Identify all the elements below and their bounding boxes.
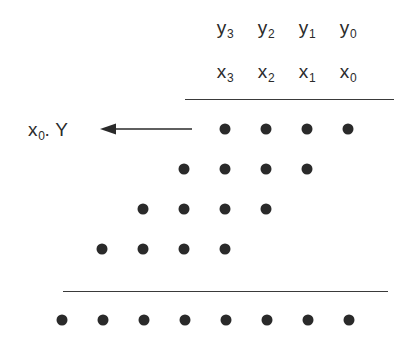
symbol-base: x [258,61,268,82]
dot [98,315,109,326]
dot [221,315,232,326]
arrow-icon [100,124,192,135]
dot [138,244,149,255]
arrow-head [100,124,116,135]
dot [179,164,190,175]
symbol-base: x [217,61,227,82]
dot [220,164,231,175]
dot [180,315,191,326]
symbol-base: y [299,17,309,38]
dot [138,204,149,215]
symbol-subscript: 3 [227,27,234,41]
x-operand-label-x2: x2 [258,62,275,81]
symbol-subscript: 3 [227,71,234,85]
dot [303,315,314,326]
x-operand-label-x0: x0 [340,62,357,81]
partial-product-arrow-svg [0,0,398,340]
symbol-subscript: 2 [268,27,275,41]
dot [97,244,108,255]
symbol-base: x [299,61,309,82]
dot [179,244,190,255]
dot [220,244,231,255]
dot [262,315,273,326]
x-operand-label-x3: x3 [217,62,234,81]
dot [139,315,150,326]
annotation-suffix: . Y [45,119,69,140]
dot [302,164,313,175]
dot [343,124,354,135]
partial-product-figure: y3y2y1y0 x3x2x1x0 x0. Y [0,0,398,340]
dot [302,124,313,135]
dot [344,315,355,326]
dot [261,204,272,215]
symbol-subscript: 2 [268,71,275,85]
symbol-base: x [28,119,38,140]
dot [220,204,231,215]
dot [179,204,190,215]
first-partial-product-label: x0. Y [28,120,68,139]
y-operand-label-y2: y2 [258,18,275,37]
y-operand-label-y0: y0 [340,18,357,37]
dot [261,164,272,175]
dot [220,124,231,135]
symbol-subscript: 0 [38,129,45,143]
dot [57,315,68,326]
symbol-base: y [217,17,227,38]
top-rule [185,99,394,100]
symbol-base: x [340,61,350,82]
symbol-subscript: 0 [350,71,357,85]
symbol-subscript: 1 [309,71,316,85]
symbol-base: y [340,17,350,38]
x-operand-label-x1: x1 [299,62,316,81]
symbol-base: y [258,17,268,38]
symbol-subscript: 0 [350,27,357,41]
sum-rule [63,291,388,292]
dot [261,124,272,135]
symbol-subscript: 1 [309,27,316,41]
y-operand-label-y1: y1 [299,18,316,37]
y-operand-label-y3: y3 [217,18,234,37]
